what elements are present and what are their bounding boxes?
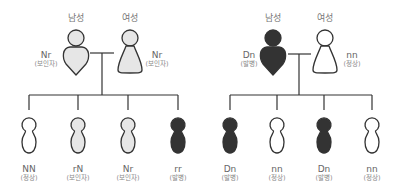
left-father-figure	[63, 30, 88, 75]
genotype: NN	[20, 164, 37, 174]
right-child-2-figure	[270, 118, 284, 153]
right-male-label: 남성	[265, 11, 281, 24]
right-mother-label: nn (정상)	[343, 50, 360, 68]
right-child-1-figure	[223, 118, 237, 153]
genotype: Nr	[145, 50, 168, 60]
left-child-1-figure	[22, 118, 36, 153]
family-right	[223, 30, 379, 153]
genotype: Dn	[240, 50, 257, 60]
right-child-2-label: nn (정상)	[268, 164, 285, 182]
genotype: Dn	[315, 164, 332, 174]
family-left	[22, 30, 185, 153]
pedigree-diagram	[0, 0, 401, 195]
right-father-figure	[260, 30, 285, 75]
genotype: nn	[343, 50, 360, 60]
genotype: nn	[268, 164, 285, 174]
genotype: Nr	[116, 164, 139, 174]
left-child-3-figure	[121, 118, 135, 153]
left-father-label: Nr (보인자)	[34, 50, 57, 68]
status: (발병)	[221, 174, 238, 182]
status: (발병)	[169, 174, 186, 182]
status: (정상)	[363, 174, 380, 182]
status: (정상)	[20, 174, 37, 182]
right-female-label: 여성	[317, 11, 333, 24]
status: (발병)	[315, 174, 332, 182]
right-father-label: Dn (발병)	[240, 50, 257, 68]
left-child-1-label: NN (정상)	[20, 164, 37, 182]
right-child-4-label: nn (정상)	[363, 164, 380, 182]
status: (보인자)	[34, 60, 57, 68]
left-child-4-label: rr (발병)	[169, 164, 186, 182]
status: (보인자)	[66, 174, 89, 182]
right-mother-figure	[313, 30, 337, 73]
left-child-2-label: rN (보인자)	[66, 164, 89, 182]
left-child-4-figure	[171, 118, 185, 153]
genotype: Nr	[34, 50, 57, 60]
genotype: rr	[169, 164, 186, 174]
left-child-2-figure	[71, 118, 85, 153]
left-female-label: 여성	[122, 11, 138, 24]
genotype: rN	[66, 164, 89, 174]
status: (발병)	[240, 60, 257, 68]
left-mother-label: Nr (보인자)	[145, 50, 168, 68]
left-mother-figure	[118, 30, 142, 73]
status: (정상)	[343, 60, 360, 68]
right-child-3-figure	[317, 118, 331, 153]
right-child-3-label: Dn (발병)	[315, 164, 332, 182]
left-male-label: 남성	[68, 11, 84, 24]
status: (보인자)	[116, 174, 139, 182]
left-child-3-label: Nr (보인자)	[116, 164, 139, 182]
status: (보인자)	[145, 60, 168, 68]
status: (정상)	[268, 174, 285, 182]
right-child-4-figure	[365, 118, 379, 153]
genotype: Dn	[221, 164, 238, 174]
genotype: nn	[363, 164, 380, 174]
right-child-1-label: Dn (발병)	[221, 164, 238, 182]
